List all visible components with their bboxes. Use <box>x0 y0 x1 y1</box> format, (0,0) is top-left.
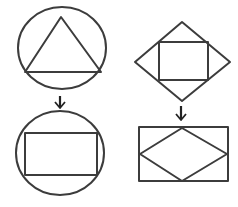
right-bottom-diamond <box>140 128 227 181</box>
right-bottom-rectangle <box>139 127 228 181</box>
left-bottom-circle <box>16 111 104 195</box>
right-bottom-figure <box>139 127 228 181</box>
arrow-down-icon <box>55 96 65 108</box>
left-top-figure <box>18 7 106 89</box>
right-top-figure <box>135 22 230 101</box>
right-top-rectangle <box>159 42 208 80</box>
right-top-diamond <box>135 22 230 101</box>
left-bottom-figure <box>16 111 104 195</box>
arrow-down-icon <box>176 106 186 120</box>
left-bottom-rectangle <box>25 133 97 175</box>
diagram-svg <box>0 0 238 207</box>
diagram-canvas <box>0 0 238 207</box>
left-top-triangle <box>25 17 101 72</box>
